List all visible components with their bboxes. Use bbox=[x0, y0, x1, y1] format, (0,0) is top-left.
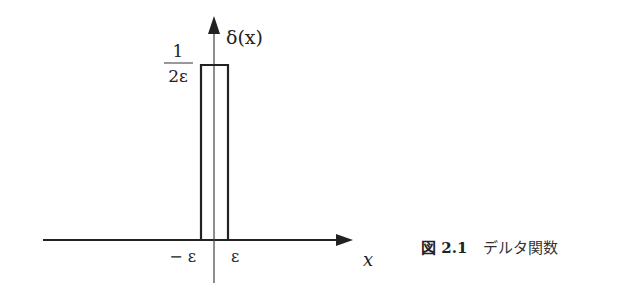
caption-label: 図 2.1 bbox=[421, 239, 467, 257]
y-axis-arrow-icon bbox=[208, 16, 220, 34]
height-label-numerator: 1 bbox=[173, 41, 184, 61]
y-axis-label: δ(x) bbox=[226, 26, 263, 48]
x-axis-label: x bbox=[363, 249, 373, 270]
caption-title: デルタ関数 bbox=[483, 239, 558, 257]
height-label-denominator: 2ε bbox=[168, 66, 188, 86]
x-tick-left: − ε bbox=[169, 247, 196, 266]
x-axis-arrow-icon bbox=[336, 234, 353, 246]
x-tick-right: ε bbox=[231, 247, 239, 266]
figure-caption: 図 2.1デルタ関数 bbox=[421, 236, 558, 257]
